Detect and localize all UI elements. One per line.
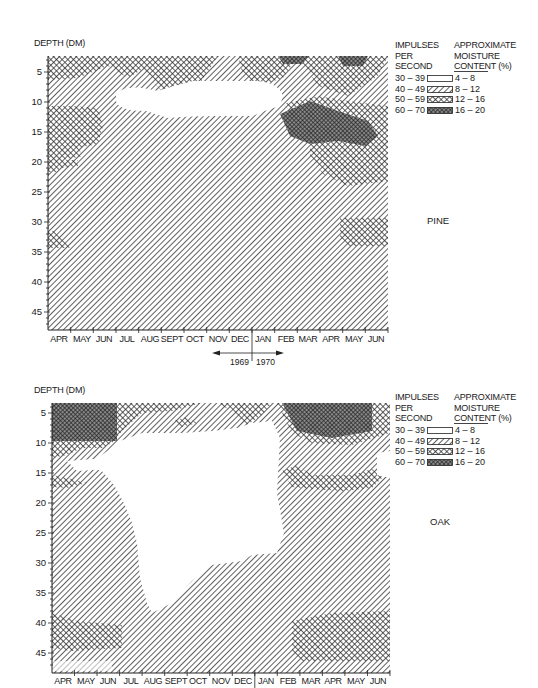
oak-y-axis-label: DEPTH (DM) [34, 385, 85, 395]
legend-row: 60 – 7016 – 20 [395, 105, 485, 116]
oak-chart-plot [52, 403, 394, 675]
legend-swatch-crosshatch-icon [427, 448, 453, 455]
pine-y-tick: 35 [20, 246, 42, 257]
oak-x-month: JUN [365, 676, 391, 686]
pine-y-tick: 30 [20, 216, 42, 227]
legend-row: 40 – 498 – 12 [395, 84, 485, 95]
oak-y-tick: 5 [24, 407, 46, 418]
pine-legend-moisture-header: APPROXIMATE MOISTURE CONTENT (%) [454, 40, 516, 72]
pine-y-tick: 10 [20, 96, 42, 107]
pine-y-axis-label: DEPTH (DM) [34, 38, 85, 48]
oak-y-tick: 35 [24, 587, 46, 598]
pine-x-month: JUN [363, 334, 389, 344]
pine-year-1970: 1970 [256, 357, 275, 367]
oak-y-tick: 30 [24, 557, 46, 568]
legend-row: 30 – 394 – 8 [395, 73, 485, 84]
pine-y-tick: 45 [20, 306, 42, 317]
legend-row: 60 – 7016 – 20 [395, 457, 485, 468]
legend-divider [454, 423, 488, 424]
oak-species-label: OAK [430, 516, 450, 527]
oak-y-tick: 10 [24, 437, 46, 448]
legend-swatch-crosshatch-icon [427, 96, 453, 103]
oak-y-tick: 45 [24, 647, 46, 658]
oak-legend-impulses-header: IMPULSES PER SECOND [395, 392, 439, 424]
legend-row: 50 – 5912 – 16 [395, 94, 485, 105]
pine-year-1969: 1969 [230, 357, 249, 367]
pine-y-tick: 25 [20, 186, 42, 197]
legend-row: 30 – 394 – 8 [395, 425, 485, 436]
oak-legend-moisture-header: APPROXIMATE MOISTURE CONTENT (%) [454, 392, 516, 424]
pine-species-label: PINE [427, 215, 449, 226]
oak-y-tick: 25 [24, 527, 46, 538]
legend-swatch-dense-icon [427, 459, 453, 466]
legend-swatch-dense-icon [427, 107, 453, 114]
legend-divider [454, 71, 488, 72]
oak-y-tick: 15 [24, 467, 46, 478]
pine-y-tick: 15 [20, 126, 42, 137]
pine-y-tick: 5 [20, 66, 42, 77]
oak-legend-rows: 30 – 394 – 8 40 – 498 – 12 50 – 5912 – 1… [395, 425, 485, 467]
pine-y-tick: 40 [20, 276, 42, 287]
legend-swatch-diagonal-icon [427, 438, 453, 445]
legend-row: 40 – 498 – 12 [395, 436, 485, 447]
pine-legend-impulses-header: IMPULSES PER SECOND [395, 40, 439, 72]
pine-legend-rows: 30 – 394 – 8 40 – 498 – 12 50 – 5912 – 1… [395, 73, 485, 115]
oak-y-tick: 20 [24, 497, 46, 508]
legend-swatch-blank-icon [427, 75, 453, 82]
legend-row: 50 – 5912 – 16 [395, 446, 485, 457]
legend-swatch-blank-icon [427, 427, 453, 434]
legend-swatch-diagonal-icon [427, 86, 453, 93]
oak-y-tick: 40 [24, 617, 46, 628]
pine-chart-plot [48, 56, 390, 332]
pine-y-tick: 20 [20, 156, 42, 167]
